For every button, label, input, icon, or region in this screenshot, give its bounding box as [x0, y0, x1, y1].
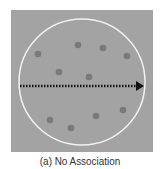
data-point [124, 53, 131, 60]
data-point [68, 125, 75, 132]
figure-caption: (a) No Association [8, 155, 152, 167]
data-point [100, 45, 107, 52]
data-point [47, 117, 54, 124]
background-square [11, 10, 153, 152]
data-point [35, 51, 42, 58]
data-point [86, 74, 93, 81]
data-point [75, 42, 82, 49]
data-point [56, 69, 63, 76]
diagram [0, 0, 160, 169]
data-point [120, 107, 127, 114]
data-point [93, 113, 100, 120]
